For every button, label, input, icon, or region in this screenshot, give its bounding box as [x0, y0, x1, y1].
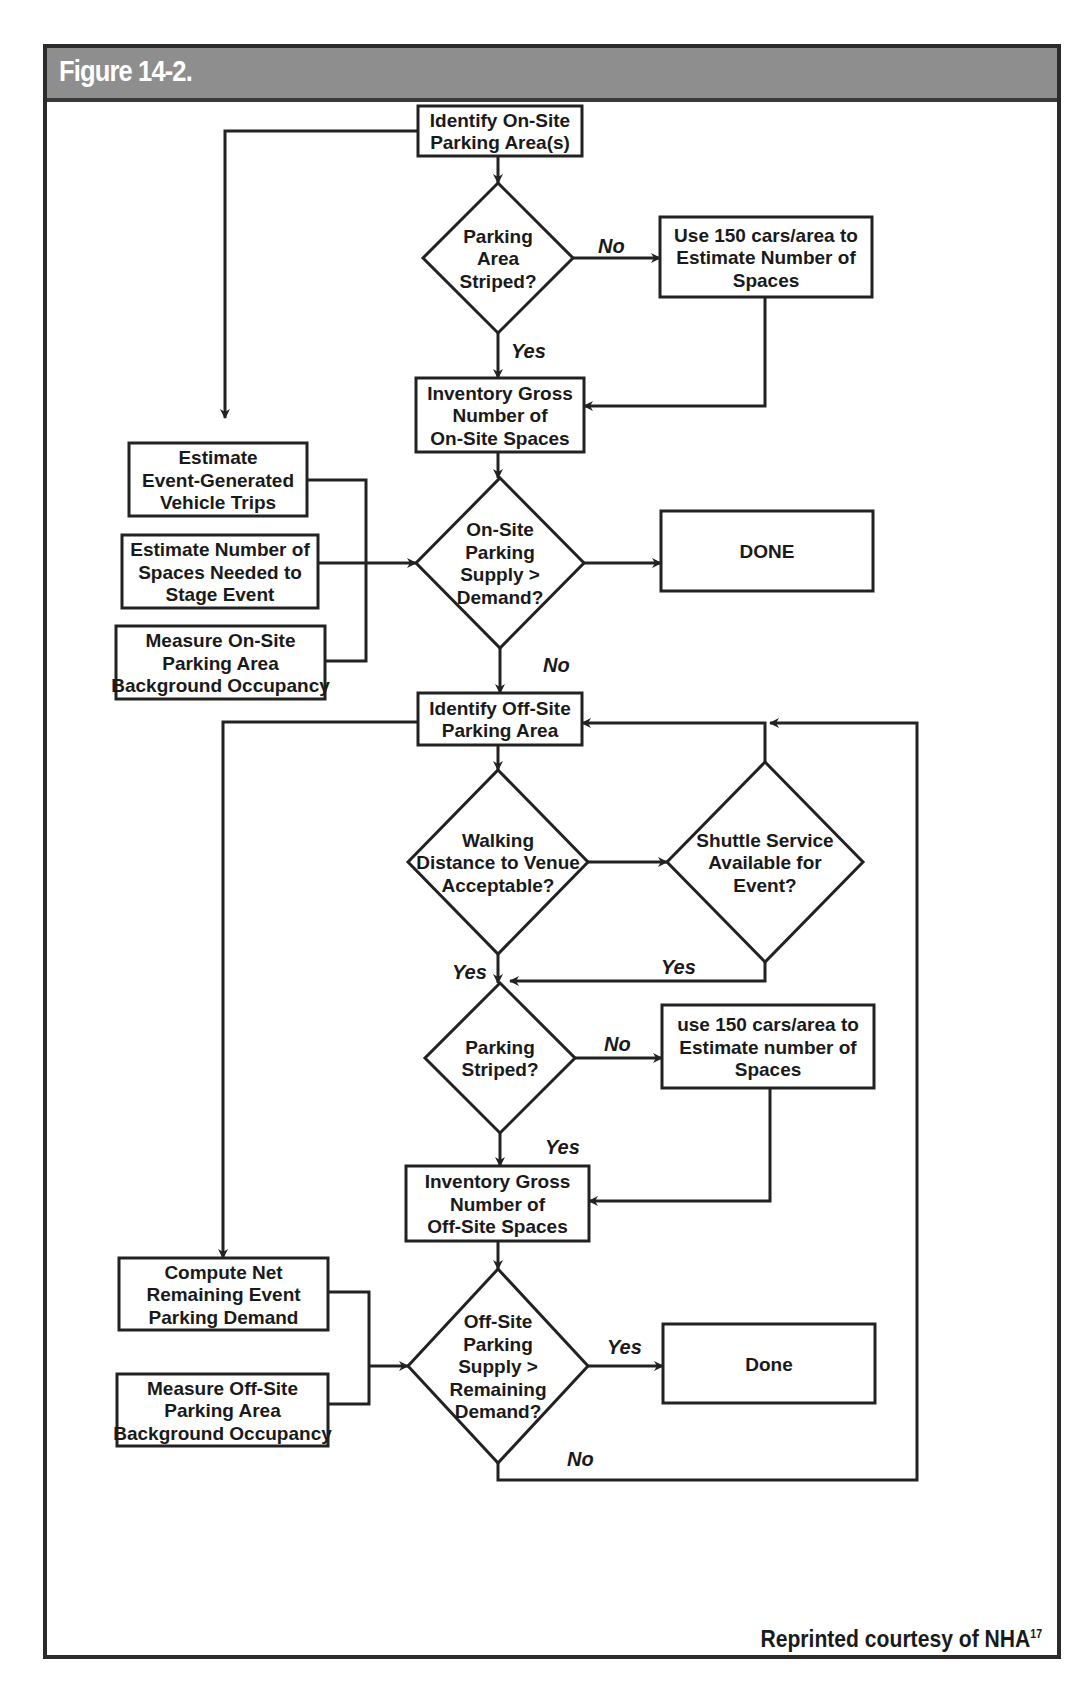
edge-label-no: No	[604, 1033, 631, 1055]
node-label: On-Site	[466, 519, 534, 540]
node-done1: DONE	[661, 511, 873, 591]
node-label: On-Site Spaces	[430, 428, 569, 449]
node-measure-offsite: Measure Off-SiteParking AreaBackground O…	[113, 1374, 332, 1446]
node-identify-onsite: Identify On-SiteParking Area(s)	[418, 106, 582, 156]
node-label: Supply >	[460, 564, 540, 585]
node-label: Parking	[463, 226, 533, 247]
node-label: Compute Net	[164, 1262, 283, 1283]
node-striped1: ParkingAreaStriped?	[423, 183, 573, 333]
node-label: Distance to Venue	[416, 852, 580, 873]
node-label: Background Occupancy	[113, 1423, 332, 1444]
node-label: Number of	[453, 405, 549, 426]
node-label: Identify On-Site	[430, 110, 570, 131]
edge-label-no: No	[567, 1448, 594, 1470]
node-label: Spaces	[735, 1059, 802, 1080]
node-done2: Done	[663, 1324, 875, 1403]
node-inv-offsite: Inventory GrossNumber ofOff-Site Spaces	[406, 1166, 589, 1241]
edge-label-yes: Yes	[545, 1136, 580, 1158]
node-label: Demand?	[455, 1401, 542, 1422]
node-label: Inventory Gross	[425, 1171, 571, 1192]
credit-superscript: 17	[1030, 1627, 1042, 1641]
node-label: Parking	[463, 1334, 533, 1355]
node-label: DONE	[740, 541, 795, 562]
node-label: Parking Area	[162, 653, 279, 674]
node-label: Stage Event	[166, 584, 275, 605]
edge-label-yes: Yes	[661, 956, 696, 978]
node-label: Remaining	[449, 1379, 546, 1400]
edge-label-yes: Yes	[511, 340, 546, 362]
node-label: Area	[477, 248, 520, 269]
node-label: Striped?	[461, 1059, 538, 1080]
node-compute-net: Compute NetRemaining EventParking Demand	[119, 1258, 328, 1330]
node-label: Demand?	[457, 587, 544, 608]
connector-15	[510, 962, 765, 981]
node-use150-2: use 150 cars/area toEstimate number ofSp…	[662, 1005, 874, 1088]
flowchart: Identify On-SiteParking Area(s)ParkingAr…	[0, 0, 1090, 1708]
node-label: Estimate number of	[679, 1037, 857, 1058]
node-label: Measure On-Site	[146, 630, 296, 651]
node-label: Number of	[450, 1194, 546, 1215]
decision-diamond	[425, 983, 575, 1133]
node-label: Striped?	[459, 271, 536, 292]
node-onsite-supply: On-SiteParkingSupply >Demand?	[416, 478, 584, 648]
node-striped2: ParkingStriped?	[425, 983, 575, 1133]
node-label: Estimate	[178, 447, 257, 468]
node-label: Parking Demand	[149, 1307, 299, 1328]
node-walking: WalkingDistance to VenueAcceptable?	[408, 770, 588, 954]
node-label: Event-Generated	[142, 470, 294, 491]
connector-4	[584, 297, 765, 406]
node-label: Acceptable?	[442, 875, 555, 896]
figure-credit: Reprinted courtesy of NHA17	[760, 1625, 1042, 1653]
node-label: Done	[745, 1354, 793, 1375]
node-label: Parking	[465, 1037, 535, 1058]
node-label: Parking Area	[442, 720, 559, 741]
credit-text: Reprinted courtesy of NHA	[760, 1625, 1030, 1652]
node-label: Spaces Needed to	[138, 562, 302, 583]
connector-13	[582, 723, 765, 762]
edge-label-no: No	[543, 654, 570, 676]
node-label: Spaces	[733, 270, 800, 291]
node-label: Parking	[465, 542, 535, 563]
node-label: Off-Site	[464, 1311, 533, 1332]
connector-10	[223, 722, 418, 1258]
node-label: Walking	[462, 830, 534, 851]
decision-diamond	[416, 478, 584, 648]
node-label: Available for	[708, 852, 822, 873]
connector-1	[225, 131, 418, 418]
node-label: Parking Area(s)	[430, 132, 570, 153]
node-inv-onsite: Inventory GrossNumber ofOn-Site Spaces	[416, 378, 584, 452]
node-label: Inventory Gross	[427, 383, 573, 404]
node-label: use 150 cars/area to	[677, 1014, 859, 1035]
node-label: Parking Area	[164, 1400, 281, 1421]
node-label: Event?	[733, 875, 796, 896]
node-offsite-supply: Off-SiteParkingSupply >RemainingDemand?	[408, 1269, 588, 1463]
node-identify-offsite: Identify Off-SiteParking Area	[418, 693, 582, 745]
connector-20	[328, 1292, 369, 1404]
node-label: Estimate Number of	[676, 247, 856, 268]
node-label: Estimate Number of	[130, 539, 310, 560]
node-label: Identify Off-Site	[429, 698, 570, 719]
node-measure-onsite: Measure On-SiteParking AreaBackground Oc…	[111, 626, 330, 699]
node-est-spaces: Estimate Number ofSpaces Needed toStage …	[122, 535, 318, 608]
node-use150-1: Use 150 cars/area toEstimate Number ofSp…	[660, 217, 872, 297]
node-label: Supply >	[458, 1356, 538, 1377]
node-label: Off-Site Spaces	[427, 1216, 567, 1237]
connector-18	[589, 1088, 770, 1201]
edge-label-yes: Yes	[452, 961, 487, 983]
node-label: Use 150 cars/area to	[674, 225, 858, 246]
node-shuttle: Shuttle ServiceAvailable forEvent?	[667, 762, 863, 962]
node-label: Measure Off-Site	[147, 1378, 298, 1399]
node-label: Remaining Event	[146, 1284, 301, 1305]
node-label: Background Occupancy	[111, 675, 330, 696]
node-label: Shuttle Service	[696, 830, 833, 851]
node-est-trips: EstimateEvent-GeneratedVehicle Trips	[129, 443, 307, 516]
edge-label-no: No	[598, 235, 625, 257]
edge-label-yes: Yes	[607, 1336, 642, 1358]
node-label: Vehicle Trips	[160, 492, 276, 513]
